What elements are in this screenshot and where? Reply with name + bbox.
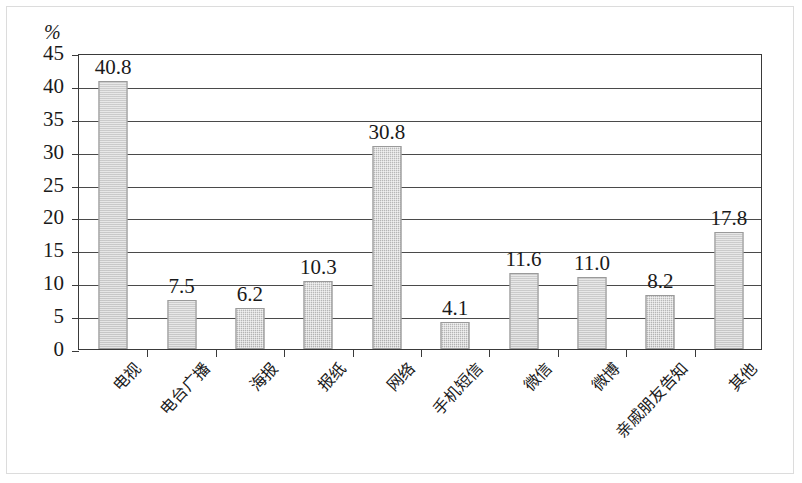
x-axis-category-label-text: 海报 bbox=[243, 356, 282, 396]
x-axis-category-labels: 电视电台广播海报报纸网络手机短信微信微博亲戚朋友告知其他 bbox=[78, 352, 762, 480]
bar-slot: 8.2 bbox=[626, 55, 694, 349]
bar-value-label: 6.2 bbox=[237, 284, 263, 305]
y-axis-tick-mark bbox=[72, 318, 79, 319]
y-axis-tick-mark bbox=[72, 219, 79, 220]
bar[interactable] bbox=[372, 146, 401, 349]
y-axis-tick-mark bbox=[72, 121, 79, 122]
bar-value-label: 7.5 bbox=[168, 276, 194, 297]
bar-value-label: 10.3 bbox=[300, 257, 337, 278]
bar-slot: 30.8 bbox=[353, 55, 421, 349]
bar[interactable] bbox=[304, 281, 333, 349]
y-axis-tick-label: 15 bbox=[0, 240, 64, 261]
bar-slot: 10.3 bbox=[284, 55, 352, 349]
bar[interactable] bbox=[509, 273, 538, 349]
x-axis-category-label-text: 网络 bbox=[380, 356, 419, 396]
figure-canvas: % 454035302520151050 40.87.56.210.330.84… bbox=[0, 0, 802, 483]
x-axis-category-label-text: 电视 bbox=[106, 356, 145, 396]
bar[interactable] bbox=[441, 322, 470, 349]
y-axis-tick-mark bbox=[72, 88, 79, 89]
bar-slot: 7.5 bbox=[147, 55, 215, 349]
bar-value-label: 40.8 bbox=[95, 57, 132, 78]
y-axis-tick-label: 35 bbox=[0, 109, 64, 130]
bar-slot: 11.6 bbox=[489, 55, 557, 349]
bar-slot: 4.1 bbox=[421, 55, 489, 349]
bar-slot: 6.2 bbox=[216, 55, 284, 349]
y-axis-tick-label: 40 bbox=[0, 76, 64, 97]
x-axis-category-label-text: 手机短信 bbox=[427, 356, 488, 419]
bar-value-label: 30.8 bbox=[368, 122, 405, 143]
y-axis-tick-mark bbox=[72, 154, 79, 155]
bar-slot: 17.8 bbox=[695, 55, 763, 349]
y-axis-tick-mark bbox=[72, 55, 79, 56]
x-axis-category-label-text: 微信 bbox=[517, 356, 556, 396]
bar-value-label: 8.2 bbox=[647, 271, 673, 292]
y-axis-tick-label: 5 bbox=[0, 306, 64, 327]
bar-slot: 40.8 bbox=[79, 55, 147, 349]
y-axis-tick-label: 25 bbox=[0, 175, 64, 196]
bar[interactable] bbox=[577, 277, 606, 349]
x-axis-category-label-text: 报纸 bbox=[312, 356, 351, 396]
x-axis-category-label-text: 电台广播 bbox=[153, 356, 214, 419]
bar[interactable] bbox=[235, 308, 264, 349]
y-axis-tick-mark bbox=[72, 285, 79, 286]
bar[interactable] bbox=[99, 81, 128, 349]
y-axis-tick-labels: 454035302520151050 bbox=[0, 0, 72, 483]
bar-value-label: 17.8 bbox=[710, 208, 747, 229]
y-axis-tick-label: 0 bbox=[0, 339, 64, 360]
bar-value-label: 11.0 bbox=[574, 253, 610, 274]
x-axis-category-label-text: 其他 bbox=[722, 356, 761, 396]
x-axis-category-label-text: 微博 bbox=[585, 356, 624, 396]
bar[interactable] bbox=[167, 300, 196, 349]
y-axis-tick-label: 45 bbox=[0, 43, 64, 64]
bar[interactable] bbox=[714, 232, 743, 349]
plot-area: 40.87.56.210.330.84.111.611.08.217.8 bbox=[78, 54, 762, 350]
y-axis-tick-label: 30 bbox=[0, 142, 64, 163]
y-axis-tick-mark bbox=[72, 187, 79, 188]
y-axis-tick-label: 10 bbox=[0, 273, 64, 294]
bar-value-label: 11.6 bbox=[506, 249, 542, 270]
x-axis-category-label-text: 亲戚朋友告知 bbox=[610, 356, 693, 443]
y-axis-tick-label: 20 bbox=[0, 207, 64, 228]
bar-value-label: 4.1 bbox=[442, 298, 468, 319]
y-axis-tick-mark bbox=[72, 252, 79, 253]
bar-slot: 11.0 bbox=[558, 55, 626, 349]
bar[interactable] bbox=[646, 295, 675, 349]
